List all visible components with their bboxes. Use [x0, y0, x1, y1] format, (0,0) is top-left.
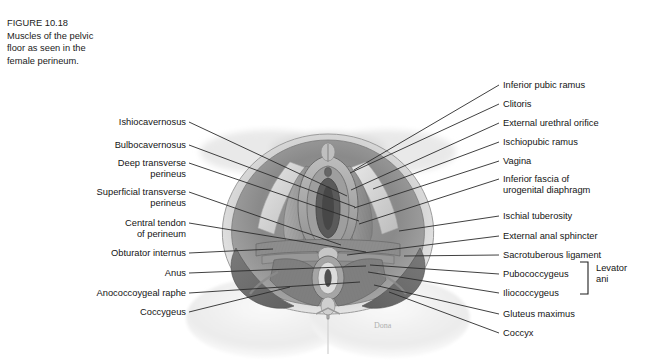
- figure-canvas: FIGURE 10.18 Muscles of the pelvic floor…: [0, 0, 657, 362]
- levator-ani-bracket: [578, 261, 592, 295]
- label-text: Anococcoygeal raphe: [97, 288, 186, 298]
- leader-line-superficial-transverse-perineus: [189, 192, 341, 245]
- label-text: Central tendon: [125, 218, 186, 228]
- label-ischiopubic-ramus: Ischiopubic ramus: [503, 137, 578, 148]
- label-text: Gluteus maximus: [503, 309, 575, 319]
- leader-line-sacrotuberous-ligament: [404, 255, 499, 256]
- label-text: External urethral orifice: [503, 118, 599, 128]
- leader-line-vagina: [354, 161, 499, 208]
- label-ischial-tuberosity: Ischial tuberosity: [503, 211, 572, 222]
- label-coccyx: Coccyx: [503, 328, 533, 339]
- label-text: Vagina: [503, 156, 531, 166]
- leader-line-coccyx: [389, 292, 499, 333]
- label-gluteus-maximus: Gluteus maximus: [503, 309, 575, 320]
- label-text: Inferior pubic ramus: [503, 80, 585, 90]
- label-central-tendon-of-perineum: Central tendonof perineum: [125, 218, 186, 241]
- label-anococcoygeal-raphe: Anococcoygeal raphe: [97, 288, 186, 299]
- label-anus: Anus: [165, 268, 186, 279]
- leader-line-anococcoygeal-raphe: [189, 282, 360, 293]
- leader-line-clitoris: [350, 104, 499, 173]
- label-text: Superficial transverse: [97, 187, 186, 197]
- label-text: Pubococcygeus: [503, 269, 569, 279]
- label-external-urethral-orifice: External urethral orifice: [503, 118, 599, 129]
- label-text-line2: of perineum: [125, 229, 186, 240]
- label-bulbocavernosus: Bulbocavernosus: [115, 140, 186, 151]
- levator-ani-label: Levator ani: [596, 263, 627, 286]
- leader-line-obturator-internus: [189, 249, 273, 253]
- label-text: Bulbocavernosus: [115, 140, 186, 150]
- levator-ani-line-2: ani: [596, 274, 608, 284]
- leader-line-iliococcygeus: [368, 272, 499, 293]
- label-coccygeus: Coccygeus: [140, 307, 186, 318]
- label-text-line2: perineus: [97, 198, 186, 209]
- leader-line-bulbocavernosus: [189, 145, 355, 207]
- leader-line-external-anal-sphincter: [347, 236, 499, 255]
- label-text: Iliococcygeus: [503, 288, 559, 298]
- label-obturator-internus: Obturator internus: [111, 248, 186, 259]
- label-clitoris: Clitoris: [503, 99, 531, 110]
- leader-line-central-tendon-of-perineum: [189, 223, 366, 252]
- label-text: Coccyx: [503, 328, 533, 338]
- levator-ani-line-1: Levator: [596, 263, 627, 273]
- leader-line-coccygeus: [189, 287, 290, 312]
- label-text: Inferior fascia of: [503, 174, 569, 184]
- label-external-anal-sphincter: External anal sphincter: [503, 231, 598, 242]
- label-text: External anal sphincter: [503, 231, 598, 241]
- label-text: Deep transverse: [118, 158, 186, 168]
- label-text: Obturator internus: [111, 248, 186, 258]
- leader-line-ischial-tuberosity: [399, 216, 499, 231]
- leader-line-inferior-fascia-of-urogenital-diaphragm: [359, 179, 499, 224]
- label-vagina: Vagina: [503, 156, 531, 167]
- label-text-line2: urogenital diaphragm: [503, 185, 590, 196]
- label-text: Ischiopubic ramus: [503, 137, 578, 147]
- leader-line-external-urethral-orifice: [351, 123, 499, 190]
- label-superficial-transverse-perineus: Superficial transverseperineus: [97, 187, 186, 210]
- label-inferior-fascia-of-urogenital-diaphragm: Inferior fascia ofurogenital diaphragm: [503, 174, 590, 197]
- label-text: Ischial tuberosity: [503, 211, 572, 221]
- label-deep-transverse-perineus: Deep transverseperineus: [118, 158, 186, 181]
- label-ishiocavernosus: Ishiocavernosus: [119, 117, 186, 128]
- leader-line-ishiocavernosus: [189, 122, 347, 196]
- label-text: Sacrotuberous ligament: [503, 250, 601, 260]
- label-iliococcygeus: Iliococcygeus: [503, 288, 559, 299]
- label-pubococcygeus: Pubococcygeus: [503, 269, 569, 280]
- leader-line-pubococcygeus: [370, 265, 499, 274]
- leader-line-deep-transverse-perineus: [189, 163, 359, 221]
- label-text: Clitoris: [503, 99, 531, 109]
- leader-line-inferior-pubic-ramus: [354, 85, 499, 170]
- label-text: Ishiocavernosus: [119, 117, 186, 127]
- label-text: Anus: [165, 268, 186, 278]
- label-sacrotuberous-ligament: Sacrotuberous ligament: [503, 250, 601, 261]
- label-text: Coccygeus: [140, 307, 186, 317]
- label-text-line2: perineus: [118, 169, 186, 180]
- leader-line-ischiopubic-ramus: [373, 142, 499, 189]
- label-inferior-pubic-ramus: Inferior pubic ramus: [503, 80, 585, 91]
- leader-line-anus: [189, 266, 366, 273]
